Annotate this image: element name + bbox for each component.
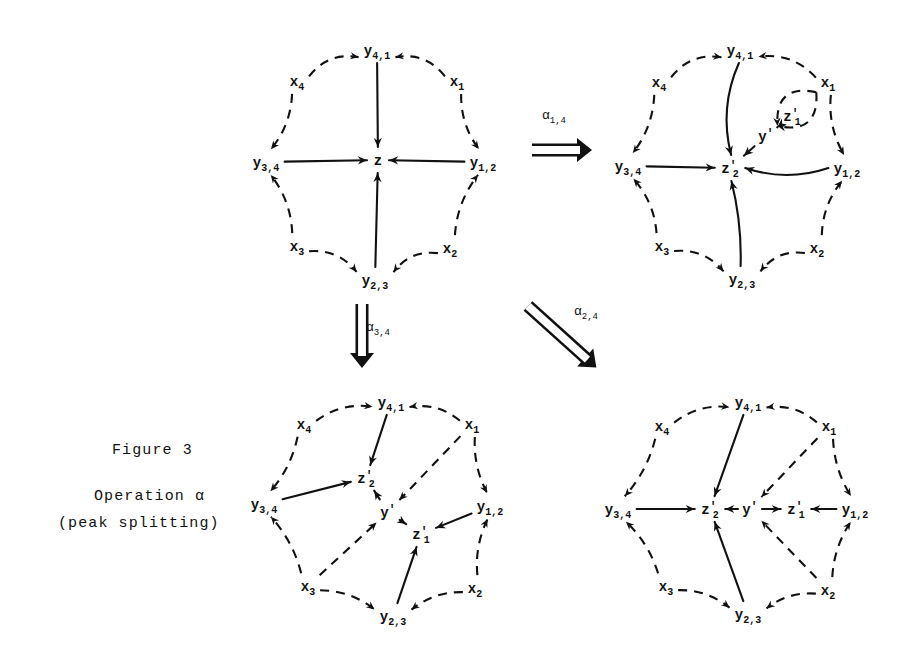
svg-text:y2,3: y2,3 bbox=[729, 272, 755, 291]
edge-x3-to-y23 bbox=[309, 251, 357, 272]
node-z1: z'1 bbox=[412, 525, 430, 546]
edge-x2-to-y1p bbox=[761, 521, 816, 578]
node-y34: y3,4 bbox=[605, 502, 631, 521]
edge-y12-to-z1 bbox=[811, 505, 836, 513]
node-x3: x3 bbox=[290, 239, 304, 258]
edge-y41-to-z2 bbox=[369, 415, 387, 465]
arrowhead-icon bbox=[396, 516, 406, 524]
edge-x4-to-y34 bbox=[270, 437, 297, 491]
edge-x3-to-y1p bbox=[320, 523, 377, 576]
svg-text:y3,4: y3,4 bbox=[251, 497, 277, 516]
edge-x1-to-y12 bbox=[475, 437, 487, 493]
node-y12: y1,2 bbox=[834, 161, 860, 180]
edge-y23-to-z2 bbox=[730, 181, 741, 266]
node-x3: x3 bbox=[659, 579, 673, 598]
svg-text:y2,3: y2,3 bbox=[380, 609, 406, 628]
svg-text:z'2: z'2 bbox=[701, 500, 719, 521]
svg-text:y4,1: y4,1 bbox=[378, 395, 404, 414]
node-x1: x1 bbox=[822, 419, 836, 438]
svg-text:x1: x1 bbox=[450, 74, 464, 93]
edge-x3-to-y34 bbox=[271, 517, 301, 573]
node-y12: y1,2 bbox=[477, 499, 503, 518]
graph-bottom-left: y4,1x1y1,2x2y2,3x3y3,4x4z'2y'z'1 bbox=[246, 386, 502, 642]
edge-y12-to-z bbox=[389, 156, 464, 164]
svg-text:x3: x3 bbox=[301, 579, 315, 598]
arrowhead-icon bbox=[410, 402, 419, 409]
svg-text:y3,4: y3,4 bbox=[615, 159, 641, 178]
alpha-2-4-subscript: 2,4 bbox=[582, 312, 598, 322]
edge-x2-to-y12 bbox=[832, 522, 850, 577]
alpha-1-4-arrow-icon bbox=[528, 128, 598, 168]
graph-top-right: y4,1x1y1,2x2y2,3x3y3,4x4z'2y'z'1 bbox=[614, 34, 866, 296]
node-x1: x1 bbox=[450, 74, 464, 93]
node-y34: y3,4 bbox=[615, 159, 641, 178]
edge-x4-to-y41 bbox=[674, 403, 729, 423]
alpha-2-4-symbol: α bbox=[574, 304, 582, 319]
node-z2: z'2 bbox=[357, 469, 375, 490]
figure-caption-title: Operation α bbox=[94, 489, 205, 506]
edge-x1-to-y41 bbox=[767, 403, 817, 423]
node-y41: y4,1 bbox=[378, 395, 404, 414]
svg-text:z: z bbox=[374, 153, 382, 169]
node-y23: y2,3 bbox=[362, 273, 388, 292]
figure-number: Figure 3 bbox=[112, 443, 193, 460]
edge-x3-to-y34 bbox=[626, 522, 658, 574]
node-y41: y4,1 bbox=[364, 43, 390, 62]
edge-y41-to-z2 bbox=[714, 415, 744, 496]
edge-y1p-to-z1 bbox=[762, 505, 781, 513]
edge-x4-to-y34 bbox=[625, 439, 655, 496]
node-y12: y1,2 bbox=[470, 155, 496, 174]
edge-y12-to-z1 bbox=[436, 513, 471, 528]
edge-y34-to-z2 bbox=[283, 480, 351, 499]
edge-x3-to-y23 bbox=[678, 590, 729, 608]
edge-y1p-to-z2 bbox=[744, 146, 755, 155]
node-x4: x4 bbox=[290, 74, 304, 93]
edge-x3-to-y34 bbox=[271, 175, 292, 233]
arrowhead-icon bbox=[470, 175, 478, 184]
edge-x1-to-y1p bbox=[761, 438, 817, 497]
figure-caption-subtitle: (peak splitting) bbox=[58, 516, 220, 533]
edge-x1-to-y12 bbox=[830, 95, 844, 155]
node-z: z bbox=[374, 153, 382, 169]
node-y1p: y' bbox=[758, 127, 774, 145]
edge-x2-to-y23 bbox=[411, 592, 462, 610]
operation-alpha-3-4 bbox=[340, 300, 384, 379]
edge-y23-to-z2 bbox=[714, 522, 743, 601]
operation-alpha-1-4 bbox=[528, 128, 598, 173]
alpha-2-4-arrow-icon bbox=[522, 300, 612, 386]
node-x2: x2 bbox=[468, 581, 482, 600]
node-x1: x1 bbox=[821, 75, 835, 94]
svg-text:x2: x2 bbox=[443, 241, 457, 260]
svg-text:x2: x2 bbox=[468, 581, 482, 600]
edge-x1-to-y12 bbox=[833, 439, 851, 496]
svg-text:z'1: z'1 bbox=[783, 107, 801, 128]
node-y1p: y' bbox=[380, 503, 396, 521]
graph-top-left: y4,1x1y1,2x2y2,3x3y3,4x4z bbox=[252, 34, 502, 296]
node-y34: y3,4 bbox=[251, 497, 277, 516]
alpha-3-4-label: α3,4 bbox=[366, 320, 390, 338]
node-z2: z'2 bbox=[721, 159, 739, 180]
svg-text:z'2: z'2 bbox=[357, 469, 375, 490]
double-arrow-slit bbox=[532, 146, 580, 154]
double-arrow-slit bbox=[358, 304, 366, 356]
edge-y23-to-z1 bbox=[397, 547, 417, 603]
node-y34: y3,4 bbox=[253, 155, 279, 174]
edge-x1-to-y12 bbox=[461, 94, 479, 149]
edge-x1-to-y41 bbox=[395, 52, 444, 76]
node-x2: x2 bbox=[821, 583, 835, 602]
svg-text:y1,2: y1,2 bbox=[842, 502, 868, 521]
panel-octagon-after-alpha-3-4: y4,1x1y1,2x2y2,3x3y3,4x4z'2y'z'1 bbox=[246, 386, 502, 642]
edge-x1-to-y41 bbox=[758, 52, 815, 78]
node-y41: y4,1 bbox=[727, 43, 753, 62]
node-x3: x3 bbox=[301, 579, 315, 598]
svg-text:y3,4: y3,4 bbox=[605, 502, 631, 521]
svg-text:y4,1: y4,1 bbox=[727, 43, 753, 62]
svg-text:z'1: z'1 bbox=[412, 525, 430, 546]
edge-y12-to-z2 bbox=[745, 167, 828, 175]
alpha-1-4-label: α1,4 bbox=[542, 108, 566, 126]
edge-y41-to-z bbox=[374, 63, 382, 147]
svg-text:z'2: z'2 bbox=[721, 159, 739, 180]
edge-x3-to-y23 bbox=[674, 251, 724, 272]
node-x4: x4 bbox=[297, 417, 311, 436]
panel-octagon-before: y4,1x1y1,2x2y2,3x3y3,4x4z bbox=[252, 34, 502, 296]
